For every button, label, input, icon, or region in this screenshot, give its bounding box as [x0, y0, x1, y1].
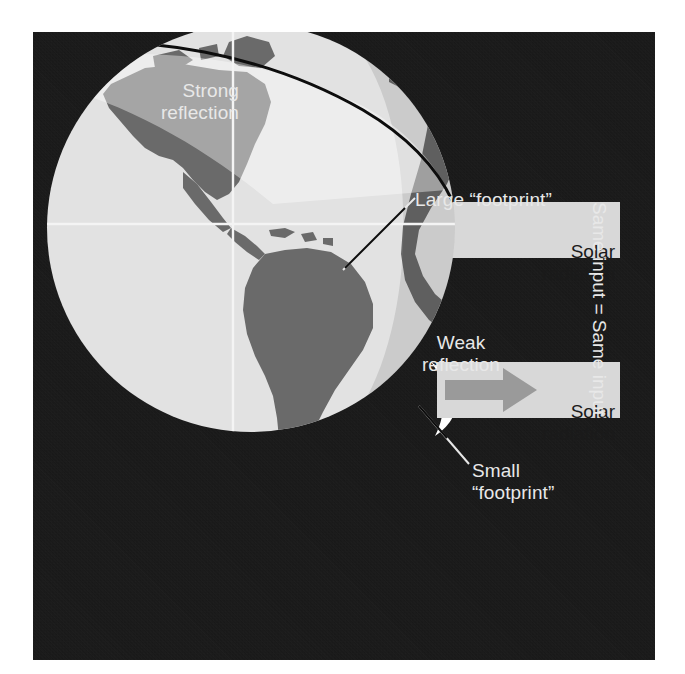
label-small-footprint: Small “footprint” — [472, 460, 554, 504]
label-strong-reflection: Strong reflection — [79, 80, 239, 124]
diagram-graphics — [33, 32, 655, 660]
label-weak-reflection: Weak reflection — [401, 332, 521, 376]
label-large-footprint: Large “footprint” — [415, 189, 552, 211]
figure-root: Strong reflection Large “footprint” Weak… — [0, 0, 685, 674]
diagram-panel: Strong reflection Large “footprint” Weak… — [33, 32, 655, 660]
label-same-input: Same input = Same input — [588, 202, 610, 482]
